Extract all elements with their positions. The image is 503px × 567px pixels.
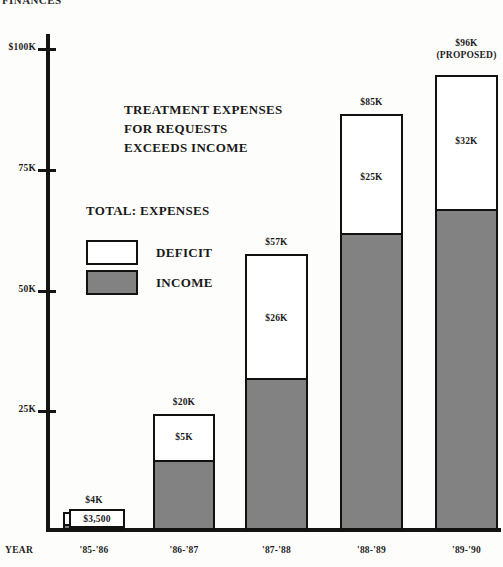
- legend-item-deficit: DEFICIT: [86, 240, 212, 265]
- bar-income-segment: [247, 378, 306, 528]
- bar-deficit-label: $32K: [435, 136, 498, 146]
- y-tick-label-50k: 50K: [0, 284, 36, 294]
- bar-deficit-label: $25K: [340, 172, 403, 182]
- bar-inner-value-box: $3,500: [69, 509, 125, 528]
- x-axis-label: '88-'89: [340, 545, 403, 555]
- x-axis-title: YEAR: [5, 545, 33, 555]
- page-title: FINANCES: [2, 0, 61, 6]
- annotation-line-1: TREATMENT EXPENSES: [124, 100, 282, 119]
- legend-label-income: INCOME: [156, 275, 213, 291]
- annotation-line-3: EXCEEDS INCOME: [124, 138, 282, 157]
- bar-total-label: $96K (PROPOSED): [435, 38, 498, 61]
- bar-deficit-label: $26K: [245, 313, 308, 323]
- y-tick-label-100k: $100K: [0, 42, 36, 52]
- bar-proposed-note: (PROPOSED): [436, 50, 496, 60]
- bar-total-label: $57K: [245, 237, 308, 249]
- bar-total-value: $96K: [455, 38, 477, 48]
- bar-total-label: $85K: [340, 97, 403, 109]
- bar-income-segment: [437, 209, 496, 528]
- legend-swatch-income-icon: [86, 270, 138, 295]
- legend-title: TOTAL: EXPENSES: [86, 203, 210, 219]
- x-axis-label: '87-'88: [245, 545, 308, 555]
- y-tick-label-25k: 25K: [0, 404, 36, 414]
- y-axis-line: [46, 34, 50, 532]
- bar-total-label: $4K: [63, 495, 125, 507]
- x-axis-label: '85-'86: [63, 545, 125, 555]
- y-tick-100k: [38, 48, 56, 51]
- legend-item-income: INCOME: [86, 270, 213, 295]
- legend-swatch-deficit-icon: [86, 240, 138, 265]
- y-tick-label-75k: 75K: [0, 163, 36, 173]
- y-tick-75k: [38, 169, 56, 172]
- y-tick-50k: [38, 290, 56, 293]
- finances-bar-chart: FINANCES $100K 75K 50K 25K TREATMENT EXP…: [0, 0, 503, 567]
- bar-income-segment: [155, 460, 213, 528]
- x-axis-label: '86-'87: [153, 545, 215, 555]
- legend-label-deficit: DEFICIT: [156, 245, 212, 261]
- x-axis-label: '89-'90: [435, 545, 498, 555]
- y-tick-25k: [38, 410, 56, 413]
- bar-deficit-label: $5K: [153, 432, 215, 442]
- bar-income-segment: [342, 233, 401, 528]
- bar-column: [245, 254, 308, 530]
- bar-total-label: $20K: [153, 397, 215, 409]
- chart-annotation: TREATMENT EXPENSES FOR REQUESTS EXCEEDS …: [124, 100, 282, 157]
- annotation-line-2: FOR REQUESTS: [124, 119, 282, 138]
